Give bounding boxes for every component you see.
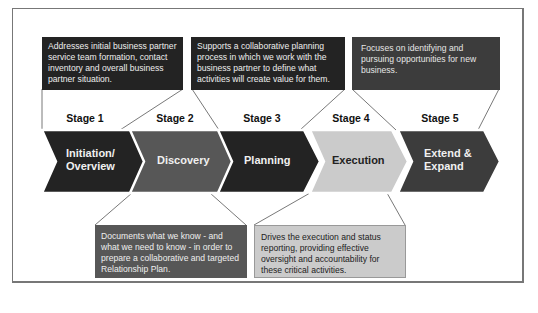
callout-stage-1: Addresses initial business partner servi… [42, 37, 183, 90]
callout-text: Addresses initial business partner servi… [48, 41, 177, 84]
chevron-label-execution: Execution [332, 154, 385, 167]
stage-label-5: Stage 5 [400, 112, 480, 124]
stage-label-1: Stage 1 [45, 112, 125, 124]
stage-label-2: Stage 2 [135, 112, 215, 124]
callout-text: Documents what we know - and what we nee… [101, 231, 239, 274]
chevron-label-planning: Planning [244, 154, 290, 167]
connector-stage-2-right [210, 193, 246, 225]
chevron-label-extend-expand: Extend & Expand [424, 147, 472, 177]
connector-stage-2-left [95, 193, 132, 225]
connector-stage-4-right [387, 193, 405, 225]
callout-stage-3: Supports a collaborative planning proces… [191, 37, 345, 90]
callout-text: Focuses on identifying and pursuing oppo… [361, 43, 476, 75]
chevron-label-discovery: Discovery [157, 154, 210, 167]
connector-stage-5-right [478, 89, 499, 130]
chevron-label-initiation: Initiation/ Overview [66, 147, 115, 177]
callout-stage-4: Drives the execution and status reportin… [254, 225, 406, 278]
callout-text: Supports a collaborative planning proces… [197, 41, 330, 84]
callout-stage-5: Focuses on identifying and pursuing oppo… [352, 37, 500, 90]
callout-text: Drives the execution and status reportin… [261, 232, 381, 275]
stage-label-4: Stage 4 [311, 112, 391, 124]
connector-stage-4-left [254, 193, 310, 225]
stage-label-3: Stage 3 [222, 112, 302, 124]
callout-stage-2: Documents what we know - and what we nee… [95, 225, 247, 278]
